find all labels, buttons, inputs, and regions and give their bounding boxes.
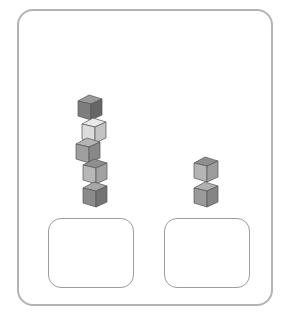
right-tray[interactable] (164, 218, 250, 288)
cube-icon (192, 155, 220, 183)
left-stack-cube[interactable] (81, 180, 109, 208)
cube-icon (81, 180, 109, 208)
right-stack-cube[interactable] (192, 155, 220, 183)
cube-icon (192, 180, 220, 208)
left-tray[interactable] (48, 218, 134, 288)
right-stack-cube[interactable] (192, 180, 220, 208)
